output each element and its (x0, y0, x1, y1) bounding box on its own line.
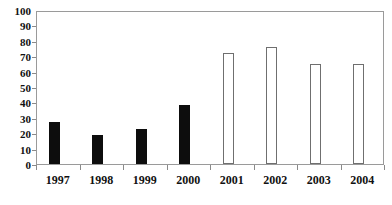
x-tick-label: 1999 (133, 172, 157, 188)
y-tick-label: 70 (20, 52, 31, 63)
y-tick-label: 80 (20, 36, 31, 47)
x-tick-mark (297, 165, 298, 170)
y-tick-mark (32, 103, 36, 104)
bar-2001 (223, 53, 234, 164)
y-tick-mark (32, 57, 36, 58)
bar-1998 (92, 135, 103, 164)
y-tick-mark (32, 73, 36, 74)
x-tick-label: 2000 (176, 172, 200, 188)
y-tick-label: 90 (20, 21, 31, 32)
y-tick-label: 100 (15, 6, 32, 17)
x-tick-mark (341, 165, 342, 170)
y-tick-label: 60 (20, 67, 31, 78)
y-tick-label: 30 (20, 113, 31, 124)
y-tick-mark (32, 42, 36, 43)
x-tick-label: 2004 (350, 172, 374, 188)
bar-1999 (136, 129, 147, 164)
y-tick-label: 0 (26, 160, 32, 171)
x-tick-mark (254, 165, 255, 170)
y-tick-mark (32, 119, 36, 120)
y-tick-mark (32, 150, 36, 151)
y-tick-label: 50 (20, 83, 31, 94)
x-tick-label: 1997 (46, 172, 70, 188)
y-tick-label: 10 (20, 144, 31, 155)
x-tick-label: 2001 (220, 172, 244, 188)
bar-1997 (49, 122, 60, 164)
y-tick-label: 40 (20, 98, 31, 109)
y-tick-mark (32, 88, 36, 89)
x-tick-mark (167, 165, 168, 170)
bar-2002 (266, 47, 277, 164)
x-tick-label: 2003 (307, 172, 331, 188)
bars-layer (37, 12, 383, 164)
x-tick-mark (80, 165, 81, 170)
bar-2000 (179, 105, 190, 164)
y-axis: 0102030405060708090100 (0, 0, 36, 205)
plot-area (36, 11, 384, 165)
bar-chart: 0102030405060708090100 19971998199920002… (0, 0, 392, 205)
x-axis-ticks (36, 165, 384, 170)
bar-2004 (353, 64, 364, 164)
x-axis: 19971998199920002001200220032004 (36, 172, 384, 192)
y-tick-mark (32, 134, 36, 135)
x-tick-mark (123, 165, 124, 170)
y-tick-mark (32, 165, 36, 166)
y-tick-label: 20 (20, 129, 31, 140)
x-tick-mark (36, 165, 37, 170)
x-tick-label: 2002 (263, 172, 287, 188)
x-tick-mark (384, 165, 385, 170)
x-tick-mark (210, 165, 211, 170)
bar-2003 (310, 64, 321, 164)
x-tick-label: 1998 (89, 172, 113, 188)
y-tick-mark (32, 26, 36, 27)
